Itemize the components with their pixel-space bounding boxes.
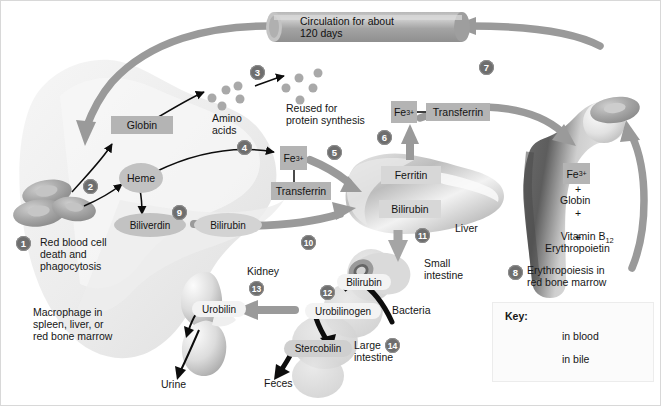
rbc-death-line3: phagocytosis xyxy=(40,261,101,273)
urine-label: Urine xyxy=(161,379,186,391)
kidney-shape xyxy=(181,272,236,376)
erythropoiesis-line1: Erythropoiesis in xyxy=(527,265,605,277)
heme-chip: Heme xyxy=(119,163,163,193)
reused-line2: protein synthesis xyxy=(286,115,365,127)
step-number-6: 6 xyxy=(377,130,392,145)
bacteria-label: Bacteria xyxy=(392,305,431,317)
fe3-left-text: Fe xyxy=(283,152,295,164)
step-number-5: 5 xyxy=(327,145,342,160)
step-number-11: 11 xyxy=(415,228,430,243)
fe3-top-chip: Fe3+ xyxy=(391,101,417,123)
step-number-14: 14 xyxy=(385,338,400,353)
amino-acids-line1: Amino xyxy=(212,113,242,125)
feces-label: Feces xyxy=(264,378,293,390)
marrow-fe3-text: Fe xyxy=(566,168,578,180)
large-intestine-line1: Large xyxy=(354,340,381,352)
key-label-in-bile: in bile xyxy=(562,354,589,366)
rbc-death-line1: Red blood cell xyxy=(40,237,107,249)
stercobilin-chip: Stercobilin xyxy=(284,340,352,357)
bilirubin-liver-chip: Bilirubin xyxy=(379,200,441,218)
rbc-death-line2: death and xyxy=(40,249,87,261)
macrophage-line1: Macrophage in xyxy=(33,307,102,319)
step-number-12: 12 xyxy=(320,285,335,300)
step-number-4: 4 xyxy=(237,140,252,155)
step-number-2: 2 xyxy=(83,179,98,194)
bilirubin-intestine-chip: Bilirubin xyxy=(337,274,391,290)
kidney-label: Kidney xyxy=(247,266,279,278)
globin-chip: Globin xyxy=(111,116,173,134)
bilirubin-macrophage-chip: Bilirubin xyxy=(194,213,262,237)
fe3-top-sup: 3+ xyxy=(406,109,414,116)
large-intestine-line2: intestine xyxy=(354,352,393,364)
step-number-8: 8 xyxy=(508,265,523,280)
diagram-canvas: Circulation for about 120 days Globin He… xyxy=(0,0,661,406)
marrow-plus-2: + xyxy=(575,208,581,220)
transferrin-top-chip: Transferrin xyxy=(426,103,490,121)
macrophage-line3: red bone marrow xyxy=(33,331,112,343)
amino-acids-line2: acids xyxy=(212,125,237,137)
step-number-3: 3 xyxy=(250,65,265,80)
liver-label: Liver xyxy=(455,223,478,235)
reused-line1: Reused for xyxy=(286,103,337,115)
macrophage-line2: spleen, liver, or xyxy=(33,319,104,331)
step-number-7: 7 xyxy=(479,60,494,75)
transferrin-left-chip: Transferrin xyxy=(271,182,331,200)
circulation-label-line1: Circulation for about xyxy=(300,16,394,28)
key-label-in-blood: in blood xyxy=(562,331,599,343)
fe3-left-chip: Fe3+ xyxy=(280,146,307,170)
small-intestine-line2: intestine xyxy=(424,270,463,282)
erythropoiesis-line2: red bone marrow xyxy=(527,277,606,289)
fe-transferrin-connector-left xyxy=(293,170,295,182)
step-number-13: 13 xyxy=(249,281,264,296)
step-number-1: 1 xyxy=(16,236,31,251)
marrow-fe3-chip: Fe3+ xyxy=(563,163,590,184)
marrow-vitamin-text: Vitamin B xyxy=(561,230,606,242)
ferritin-chip: Ferritin xyxy=(381,166,441,184)
step-number-9: 9 xyxy=(172,205,187,220)
fe3-left-sup: 3+ xyxy=(296,155,304,162)
arrow-marrow-to-rbc xyxy=(620,120,644,268)
step-number-10: 10 xyxy=(301,235,316,250)
urobilinogen-chip: Urobilinogen xyxy=(305,303,381,319)
circulation-label-line2: 120 days xyxy=(300,28,343,40)
fe3-top-text: Fe xyxy=(394,106,406,118)
fe-transferrin-connector-top xyxy=(417,111,426,113)
small-intestine-line1: Small xyxy=(424,258,450,270)
key-title: Key: xyxy=(505,311,528,323)
urobilin-chip: Urobilin xyxy=(192,301,246,317)
marrow-fe3-sup: 3+ xyxy=(579,170,587,177)
arrow-7-to-circulation xyxy=(452,17,600,46)
marrow-globin-label: Globin xyxy=(560,195,590,207)
marrow-epo-label: Erythropoietin xyxy=(545,243,610,255)
